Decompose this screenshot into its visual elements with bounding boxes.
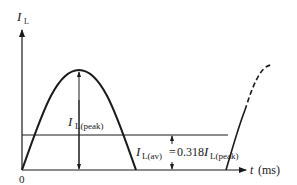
- avg-eq-sub: L(peak): [210, 151, 238, 161]
- next-pulse-dashed: [245, 65, 271, 110]
- y-axis-label: I: [16, 9, 22, 24]
- x-axis-label: t: [250, 163, 254, 177]
- x-axis-unit: (ms): [258, 163, 280, 177]
- avg-coefficient: 0.318: [177, 145, 204, 159]
- half-wave-current-diagram: I L 0 t (ms) I L(peak) I L(av) = 0.318 I…: [0, 0, 297, 185]
- peak-label-sub: L(peak): [75, 121, 103, 131]
- avg-label: I: [135, 144, 141, 159]
- avg-equals: =: [169, 145, 176, 159]
- avg-eq-I: I: [203, 144, 209, 159]
- origin-label: 0: [19, 173, 25, 185]
- next-pulse-solid: [226, 110, 245, 170]
- peak-label: I: [67, 114, 73, 129]
- y-axis-label-sub: L: [24, 17, 29, 26]
- avg-label-sub: L(av): [142, 151, 162, 161]
